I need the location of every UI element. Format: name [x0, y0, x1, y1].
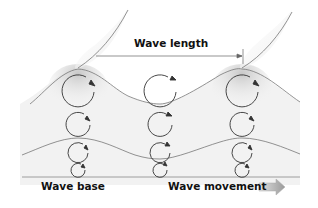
wave-orbital-diagram [0, 0, 318, 208]
water-shading [20, 8, 300, 185]
wave-length-label: Wave length [134, 37, 208, 49]
wave-base-label: Wave base [41, 180, 105, 192]
wavelength-dimension [96, 49, 243, 64]
wave-movement-label: Wave movement [168, 180, 267, 192]
